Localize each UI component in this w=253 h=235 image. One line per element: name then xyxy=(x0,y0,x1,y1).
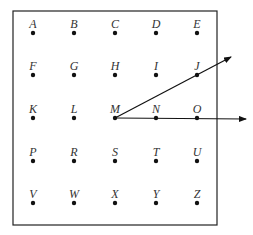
point-dot xyxy=(31,31,35,35)
point-p: P xyxy=(28,145,37,163)
point-label: R xyxy=(69,145,78,159)
point-dot xyxy=(113,159,117,163)
point-grid-diagram: ABCDEFGHIJKLMNOPRSTUVWXYZ xyxy=(0,0,253,235)
point-dot xyxy=(113,31,117,35)
ray-MO xyxy=(115,118,246,119)
point-label: V xyxy=(29,187,38,201)
point-dot xyxy=(154,201,158,205)
point-i: I xyxy=(153,59,159,77)
point-dot xyxy=(72,73,76,77)
point-label: G xyxy=(70,59,79,73)
point-h: H xyxy=(110,59,121,77)
point-dot xyxy=(154,73,158,77)
point-dot xyxy=(195,201,199,205)
point-label: L xyxy=(70,102,78,116)
point-t: T xyxy=(153,145,161,163)
point-d: D xyxy=(151,17,161,35)
point-s: S xyxy=(112,145,118,163)
point-dot xyxy=(31,73,35,77)
point-v: V xyxy=(29,187,38,205)
point-a: A xyxy=(28,17,37,35)
point-w: W xyxy=(69,187,80,205)
point-y: Y xyxy=(153,187,161,205)
point-label: B xyxy=(70,17,78,31)
point-dot xyxy=(72,159,76,163)
point-label: D xyxy=(151,17,161,31)
point-e: E xyxy=(192,17,201,35)
point-label: Z xyxy=(194,187,201,201)
point-dot xyxy=(195,159,199,163)
point-label: P xyxy=(28,145,37,159)
point-dot xyxy=(72,116,76,120)
point-label: H xyxy=(110,59,121,73)
point-dot xyxy=(31,116,35,120)
point-label: F xyxy=(28,59,37,73)
point-label: K xyxy=(28,102,38,116)
grid-points: ABCDEFGHIJKLMNOPRSTUVWXYZ xyxy=(28,17,203,205)
point-n: N xyxy=(151,102,161,120)
rays xyxy=(115,57,246,119)
point-dot xyxy=(154,31,158,35)
point-label: U xyxy=(193,145,203,159)
point-label: I xyxy=(153,59,159,73)
point-f: F xyxy=(28,59,37,77)
point-dot xyxy=(72,31,76,35)
point-o: O xyxy=(193,102,202,120)
point-label: X xyxy=(110,187,119,201)
point-u: U xyxy=(193,145,203,163)
point-l: L xyxy=(70,102,78,120)
point-c: C xyxy=(111,17,120,35)
point-label: Y xyxy=(153,187,161,201)
point-dot xyxy=(113,201,117,205)
point-label: A xyxy=(28,17,37,31)
point-k: K xyxy=(28,102,38,120)
point-label: M xyxy=(109,102,121,116)
point-label: W xyxy=(69,187,80,201)
point-label: S xyxy=(112,145,118,159)
point-dot xyxy=(72,201,76,205)
point-dot xyxy=(113,73,117,77)
point-g: G xyxy=(70,59,79,77)
point-b: B xyxy=(70,17,78,35)
point-dot xyxy=(195,31,199,35)
ray-MJ xyxy=(115,57,231,118)
point-label: T xyxy=(153,145,161,159)
point-label: C xyxy=(111,17,120,31)
point-x: X xyxy=(110,187,119,205)
point-r: R xyxy=(69,145,78,163)
point-dot xyxy=(31,201,35,205)
point-dot xyxy=(154,159,158,163)
point-label: N xyxy=(151,102,161,116)
point-z: Z xyxy=(194,187,201,205)
point-dot xyxy=(195,116,199,120)
point-dot xyxy=(31,159,35,163)
point-label: O xyxy=(193,102,202,116)
point-label: E xyxy=(192,17,201,31)
point-label: J xyxy=(194,59,200,73)
